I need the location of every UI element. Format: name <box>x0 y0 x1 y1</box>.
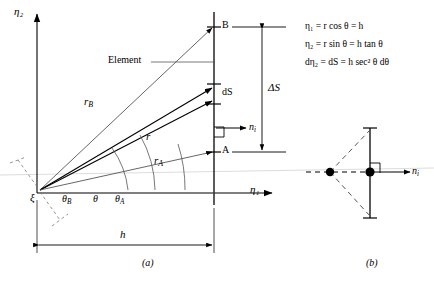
normal-subscript-b: i <box>417 170 419 178</box>
radius-r-label: r <box>146 131 150 142</box>
eta2-axis-label: η₂ <box>14 6 23 17</box>
xi-dash-lower <box>40 192 60 220</box>
point-b-label: B <box>222 20 229 30</box>
panel-b-node-right <box>365 167 374 176</box>
angle-theta-a-label: θA <box>115 194 124 206</box>
normal-label-a: ni <box>249 122 256 134</box>
radius-rb-label: rB <box>84 96 93 109</box>
radius-r-base: r <box>146 130 150 142</box>
angle-theta-label: θ <box>93 194 98 204</box>
angle-theta-base: θ <box>93 193 98 204</box>
angle-theta-b-label: θB <box>62 194 71 206</box>
angle-arc-theta-a <box>178 144 185 190</box>
radius-ra-sub: A <box>158 159 163 168</box>
ds-label: dS <box>222 87 233 97</box>
figure-container: η₂ η₁ ξ Element B A dS ΔS ni h rB r rA θ… <box>0 0 434 286</box>
radius-ra-label: rA <box>154 155 163 168</box>
equation-1: η₁ = r cos θ = h <box>305 22 363 32</box>
h-label: h <box>120 229 126 240</box>
angle-theta-b-sub: B <box>67 198 71 206</box>
panel-a-caption: (a) <box>142 257 154 268</box>
radius-rb-line <box>40 28 212 190</box>
angle-theta-a-sub: A <box>120 198 124 206</box>
angle-arc-theta-b <box>112 148 128 190</box>
radius-rb-sub: B <box>88 100 93 109</box>
delta-s-text: ΔS <box>268 81 280 93</box>
equation-3: dη₂ = dS = h sec² θ dθ <box>305 58 389 68</box>
radius-r-line-2 <box>40 101 212 190</box>
xi-dash-tick <box>10 157 26 163</box>
panel-b-caption: (b) <box>366 257 378 268</box>
equation-2: η₂ = r sin θ = h tan θ <box>305 40 383 50</box>
panel-b-dashed-lower <box>330 172 370 216</box>
panel-b-node-left <box>326 168 334 176</box>
panel-b-dashed-upper <box>330 130 370 172</box>
point-a-label: A <box>222 145 229 155</box>
radius-ra-line <box>40 152 212 190</box>
ds-text: dS <box>222 86 233 97</box>
eta1-axis-label: η₁ <box>250 184 259 195</box>
normal-label-b: ni <box>412 166 419 178</box>
element-label: Element <box>108 55 141 65</box>
origin-label: ξ <box>30 192 35 203</box>
normal-subscript-a: i <box>254 126 256 134</box>
delta-s-label: ΔS <box>268 82 280 93</box>
radius-r-line <box>40 88 212 190</box>
angle-arc-theta <box>140 135 155 190</box>
